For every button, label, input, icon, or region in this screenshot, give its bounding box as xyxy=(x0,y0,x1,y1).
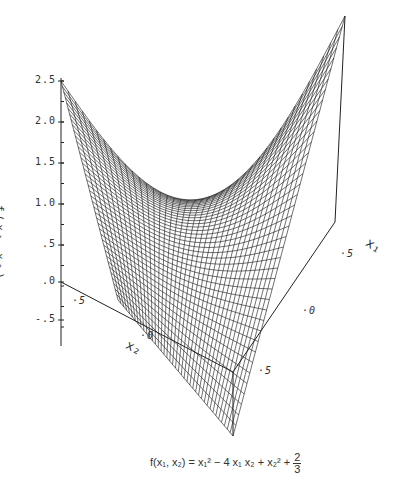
axis-tick-label: ·5 xyxy=(72,295,86,306)
z-tick-label: .5 xyxy=(42,238,56,249)
surface-plot xyxy=(0,0,402,491)
z-axis-label: f(x₁,x₂) xyxy=(0,205,6,282)
z-tick-label: 2.0 xyxy=(35,115,56,126)
formula-text: f(x₁, x₂) = x₁² − 4 x₁ x₂ + x₂² + xyxy=(150,456,293,468)
formula-fraction: 23 xyxy=(293,452,301,475)
formula-caption: f(x₁, x₂) = x₁² − 4 x₁ x₂ + x₂² + 23 xyxy=(150,452,301,475)
axis-tick-label: ·5 xyxy=(340,248,354,259)
axes xyxy=(58,16,345,436)
axis-tick-label: ·0 xyxy=(302,305,316,316)
x2-axis-line xyxy=(61,282,233,372)
mesh-lines xyxy=(61,16,345,436)
z-tick-label: -.5 xyxy=(35,313,56,324)
z-tick-label: 1.0 xyxy=(35,197,56,208)
axis-tick-label: ·0 xyxy=(140,330,154,341)
z-tick-label: 2.5 xyxy=(35,74,56,85)
fraction-denominator: 3 xyxy=(294,464,300,475)
surface-mesh xyxy=(61,16,345,436)
axis-tick-label: ·5 xyxy=(258,365,272,376)
z-tick-label: .0 xyxy=(42,275,56,286)
z-tick-label: 1.5 xyxy=(35,156,56,167)
